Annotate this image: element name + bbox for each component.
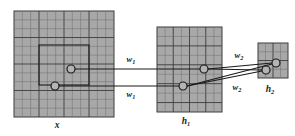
node-x-lower [51,82,59,90]
layer-label-h1: h1 [182,116,190,127]
figure-canvas: w1w1w2w2 xh1h2 [0,0,295,136]
layer-grid-x [14,11,114,117]
layers-group [14,11,288,117]
weight-label-w2-lower: w2 [233,82,242,93]
layer-label-h2: h2 [266,84,274,95]
node-h2-upper [272,59,280,67]
layer-label-x: x [54,120,60,130]
node-h1-lower [179,82,187,90]
diagram-svg: w1w1w2w2 xh1h2 [0,0,295,136]
weight-label-w1-upper: w1 [127,54,136,65]
node-x-upper [67,65,75,73]
weight-label-w2-upper: w2 [235,50,244,61]
node-h2-lower [262,66,270,74]
node-h1-upper [200,65,208,73]
weight-label-w1-lower: w1 [127,89,136,100]
